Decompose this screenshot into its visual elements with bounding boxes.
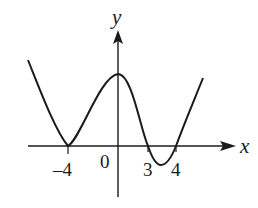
tick-label-neg4: –4 xyxy=(52,159,73,180)
tick-label-3: 3 xyxy=(143,159,153,180)
tick-label-4: 4 xyxy=(171,159,181,180)
function-curve xyxy=(28,60,203,165)
y-axis-label: y xyxy=(110,5,122,29)
x-axis-label: x xyxy=(239,134,250,158)
origin-label: 0 xyxy=(100,151,110,172)
function-graph: y x 0 –4 3 4 xyxy=(0,0,258,208)
